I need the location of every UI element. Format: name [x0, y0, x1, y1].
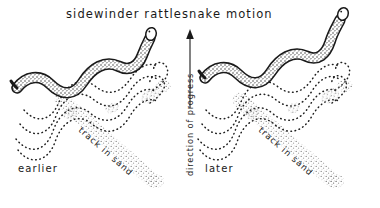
- figure-title: sidewinder rattlesnake motion: [66, 7, 273, 21]
- sand-blob-end: [326, 174, 344, 188]
- sidewinder-motion-figure: sidewinder rattlesnake motion direction …: [0, 0, 380, 208]
- direction-of-progress-label: direction of progress: [185, 73, 195, 176]
- time-label-later: later: [205, 163, 234, 174]
- sand-blob-4: [337, 80, 353, 92]
- snake-eye-icon: [149, 31, 151, 33]
- sand-blob-4: [155, 80, 171, 92]
- time-label-earlier: earlier: [18, 163, 58, 174]
- snake-eye-icon: [340, 11, 342, 13]
- sand-blob-end: [146, 174, 164, 188]
